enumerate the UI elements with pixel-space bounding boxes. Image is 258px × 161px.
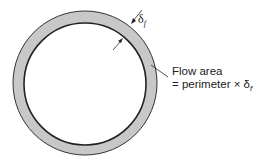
inner-film-boundary — [24, 23, 146, 145]
flow-area-line1: Flow area — [172, 65, 252, 78]
arrowhead-outer-icon — [131, 18, 136, 24]
flow-area-label: Flow area = perimeter × δf — [172, 65, 252, 95]
flow-area-line2: = perimeter × δf — [172, 78, 252, 95]
thickness-label: δf — [138, 12, 146, 28]
